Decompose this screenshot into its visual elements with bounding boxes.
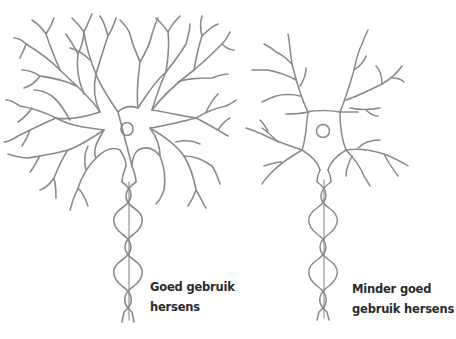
caption-line: gebruik hersens: [352, 299, 454, 319]
neuron-comparison-figure: Goed gebruik hersens Minder goed gebruik…: [0, 0, 456, 339]
caption-dense-neuron: Goed gebruik hersens: [150, 277, 235, 317]
caption-line: hersens: [150, 297, 235, 317]
caption-sparse-neuron: Minder goed gebruik hersens: [352, 279, 454, 319]
caption-line: Minder goed: [352, 279, 454, 299]
caption-line: Goed gebruik: [150, 277, 235, 297]
